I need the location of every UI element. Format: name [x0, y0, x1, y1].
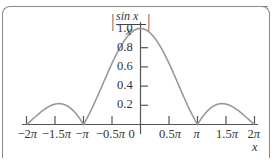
x-tick-label: 0: [129, 127, 135, 142]
y-label-denominator: x: [126, 24, 131, 39]
x-axis-label: x: [252, 140, 258, 155]
y-tick-label: 0.6: [117, 59, 133, 74]
x-tick-label: 0.5π: [159, 127, 181, 142]
x-tick-label: −π: [76, 127, 89, 142]
y-tick-label: 0.4: [117, 78, 133, 93]
x-tick-label: π: [194, 127, 200, 142]
y-tick-label: 0.2: [117, 97, 133, 112]
y-tick-label: 0.8: [117, 40, 133, 55]
y-label-numerator: sin x: [116, 9, 138, 24]
x-tick-label: 1.5π: [216, 127, 238, 142]
x-tick-label: −0.5π: [96, 127, 125, 142]
y-ticks: [141, 48, 149, 106]
x-tick-label: −2π: [18, 127, 38, 142]
x-tick-label: −1.5π: [42, 127, 71, 142]
